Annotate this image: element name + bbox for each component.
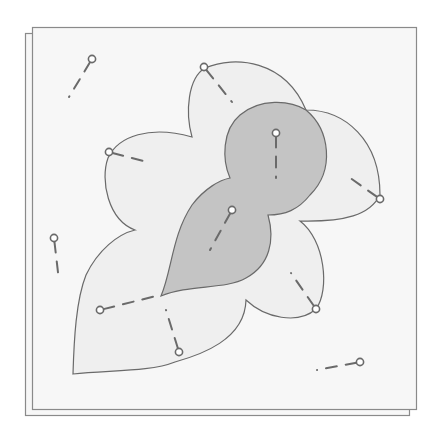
pin-head-ring-icon	[356, 358, 363, 365]
pin-head-ring-icon	[105, 148, 112, 155]
pin-head-ring-icon	[228, 206, 235, 213]
pin-head-ring-icon	[88, 55, 95, 62]
pin-head-ring-icon	[312, 305, 319, 312]
pin-head-ring-icon	[376, 195, 383, 202]
pin-head-ring-icon	[272, 129, 279, 136]
pin-head-ring-icon	[200, 63, 207, 70]
diagram-canvas	[0, 0, 435, 436]
pin-head-ring-icon	[96, 306, 103, 313]
pin-head-ring-icon	[175, 348, 182, 355]
pin-head-ring-icon	[50, 234, 57, 241]
